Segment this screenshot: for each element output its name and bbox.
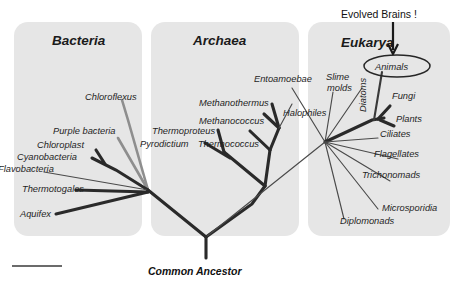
taxon-plants: Plants — [396, 114, 422, 124]
domain-label-eukarya: Eukarya — [341, 35, 394, 50]
taxon-microsporidia: Microsporidia — [382, 203, 437, 213]
domain-label-bacteria: Bacteria — [52, 33, 106, 48]
taxon-thermotogales: Thermotogales — [22, 184, 84, 194]
domain-label-archaea: Archaea — [192, 33, 247, 48]
taxon-flavobacteria: Flavobacteria — [0, 164, 54, 174]
taxon-diatoms: Diatoms — [358, 78, 368, 112]
taxon-halophiles: Halophiles — [283, 108, 327, 118]
taxon-fungi: Fungi — [392, 91, 416, 101]
taxon-aquifex: Aquifex — [19, 209, 51, 219]
phylogenetic-tree-figure: Bacteria Archaea Eukarya Chloroflexus Pu… — [0, 0, 457, 283]
taxon-purple-bacteria: Purple bacteria — [53, 126, 116, 136]
taxon-chloroplast: Chloroplast — [37, 140, 84, 150]
taxon-thermoproteus: Thermoproteus — [152, 126, 215, 136]
taxon-methanococcus: Methanococcus — [199, 116, 264, 126]
taxon-trichonomads: Trichonomads — [362, 170, 421, 180]
common-ancestor-label: Common Ancestor — [148, 265, 242, 277]
taxon-chloroflexus: Chloroflexus — [85, 92, 137, 102]
taxon-pyrodictium: Pyrodictium — [140, 139, 189, 149]
taxon-flagellates: Flagellates — [374, 149, 419, 159]
taxon-thermococcus: Thermococcus — [198, 139, 259, 149]
taxon-animals: Animals — [374, 62, 408, 72]
taxon-cyanobacteria: Cyanobacteria — [17, 152, 77, 162]
tree-canvas: Bacteria Archaea Eukarya Chloroflexus Pu… — [0, 0, 457, 283]
taxon-ciliates: Ciliates — [380, 129, 411, 139]
evolved-brains-annotation: Evolved Brains ! — [341, 8, 417, 20]
taxon-entoamoebae: Entoamoebae — [254, 74, 312, 84]
taxon-methanothermus: Methanothermus — [199, 98, 269, 108]
taxon-diplomonads: Diplomonads — [340, 216, 395, 226]
taxon-molds: molds — [327, 83, 352, 93]
taxon-slime: Slime — [326, 72, 349, 82]
branch-thermotogales — [76, 190, 148, 192]
